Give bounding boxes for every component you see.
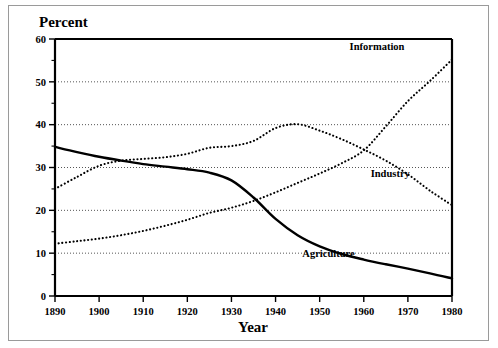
y-tick-label-30: 30: [36, 162, 47, 173]
x-tick-label-1920: 1920: [177, 306, 198, 317]
series-label-information: Information: [350, 41, 405, 52]
series-label-agriculture: Agriculture: [302, 248, 355, 259]
x-tick-label-1960: 1960: [353, 306, 374, 317]
x-tick-label-1980: 1980: [442, 306, 463, 317]
y-tick-label-40: 40: [36, 119, 47, 130]
x-axis-title: Year: [238, 319, 268, 335]
y-tick-label-10: 10: [36, 248, 47, 259]
percent-by-sector-line-chart: 0102030405060 18901900191019201930194019…: [9, 6, 488, 340]
y-tick-label-20: 20: [36, 205, 47, 216]
x-tick-label-1930: 1930: [221, 306, 242, 317]
y-tick-label-60: 60: [36, 34, 47, 45]
series-label-industry: Industry: [371, 168, 411, 179]
chart-outer-frame: 0102030405060 18901900191019201930194019…: [8, 5, 489, 341]
y-axis-tick-labels: 0102030405060: [36, 34, 47, 302]
x-tick-label-1970: 1970: [397, 306, 418, 317]
x-tick-label-1900: 1900: [89, 306, 110, 317]
y-tick-label-50: 50: [36, 77, 47, 88]
x-tick-label-1950: 1950: [309, 306, 330, 317]
x-axis-tick-labels: 1890190019101920193019401950196019701980: [45, 306, 463, 317]
x-tick-label-1890: 1890: [45, 306, 66, 317]
y-axis-title: Percent: [39, 14, 88, 30]
y-tick-label-0: 0: [41, 291, 46, 302]
x-tick-label-1940: 1940: [265, 306, 286, 317]
x-tick-label-1910: 1910: [133, 306, 154, 317]
chart-page: 0102030405060 18901900191019201930194019…: [0, 0, 498, 348]
